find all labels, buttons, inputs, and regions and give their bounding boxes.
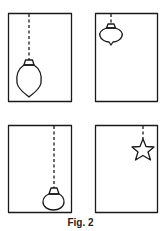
panel-top-left <box>9 14 72 102</box>
round-bauble-icon <box>43 188 64 210</box>
onion-bauble-icon <box>100 24 122 45</box>
teardrop-bauble-icon <box>17 60 41 97</box>
panel-frame <box>96 14 158 102</box>
panel-bottom-left <box>9 126 72 213</box>
figure-caption: Fig. 2 <box>0 217 161 229</box>
panel-bottom-right <box>96 126 158 213</box>
panel-frame <box>9 14 72 102</box>
panel-frame <box>9 126 72 213</box>
panel-frame <box>96 126 158 213</box>
star-icon <box>132 139 154 160</box>
panel-top-right <box>96 14 158 102</box>
figure-diagram <box>0 0 161 231</box>
